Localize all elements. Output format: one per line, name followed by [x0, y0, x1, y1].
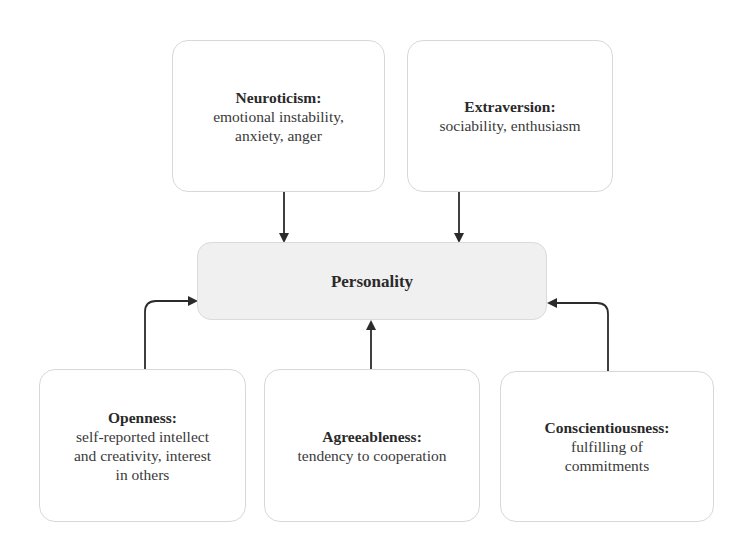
trait-description: anxiety, anger [235, 126, 322, 145]
arrow-openness [145, 301, 196, 369]
trait-box-neuroticism: Neuroticism: emotional instability, anxi… [172, 40, 385, 192]
trait-description: and creativity, interest [74, 446, 211, 465]
trait-title: Openness: [108, 408, 177, 427]
trait-box-agreeableness: Agreeableness: tendency to cooperation [264, 369, 480, 522]
trait-description: fulfilling of [571, 437, 643, 456]
trait-description: tendency to cooperation [298, 446, 447, 465]
trait-description: commitments [565, 456, 649, 475]
trait-title: Agreeableness: [322, 427, 422, 446]
trait-title: Extraversion: [464, 97, 555, 116]
personality-node: Personality [197, 242, 547, 320]
trait-description: self-reported intellect [76, 427, 209, 446]
trait-description: emotional instability, [213, 107, 344, 126]
trait-box-conscientiousness: Conscientiousness: fulfilling of commitm… [500, 371, 714, 522]
arrow-conscientiousness [549, 303, 608, 371]
trait-title: Conscientiousness: [545, 418, 670, 437]
trait-description: in others [116, 465, 170, 484]
trait-box-openness: Openness: self-reported intellect and cr… [39, 369, 246, 522]
trait-description: sociability, enthusiasm [439, 116, 580, 135]
trait-title: Neuroticism: [236, 88, 322, 107]
center-label: Personality [331, 272, 413, 291]
trait-box-extraversion: Extraversion: sociability, enthusiasm [407, 40, 613, 192]
